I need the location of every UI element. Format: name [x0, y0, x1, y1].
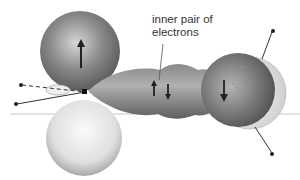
inner-pair-label: inner pair of electrons	[152, 13, 213, 39]
lower-right-bond-line	[255, 127, 272, 153]
upper-right-atom-dot	[271, 29, 275, 33]
lower-right-atom-dot	[270, 152, 274, 156]
right-sphere	[201, 53, 275, 127]
central-nucleus	[82, 89, 87, 94]
orbital-diagram	[0, 0, 300, 180]
left-upper-atom-dot	[19, 83, 23, 87]
upper-right-bond-line	[262, 32, 272, 59]
label-line-2: electrons	[152, 26, 213, 39]
label-line-1: inner pair of	[152, 13, 213, 26]
lower-left-sphere	[46, 100, 122, 176]
left-lower-atom-dot	[14, 102, 18, 106]
